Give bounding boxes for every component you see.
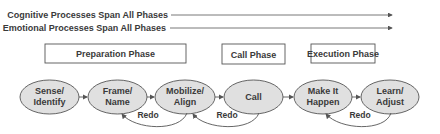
svg-text:Redo: Redo: [137, 110, 158, 120]
svg-text:Adjust: Adjust: [376, 97, 404, 107]
step-make-it-happen: Make It Happen: [294, 80, 352, 114]
svg-text:Redo: Redo: [216, 110, 237, 120]
step-mobilize-align: Mobilize/ Align: [155, 80, 215, 114]
svg-text:Name: Name: [105, 97, 130, 107]
svg-text:Redo: Redo: [349, 110, 370, 120]
phase-label: Call Phase: [231, 50, 277, 60]
step-call: Call: [224, 80, 283, 114]
svg-text:Align: Align: [174, 97, 197, 107]
diagram-canvas: Cognitive Processes Span All Phases Emot…: [0, 0, 440, 134]
phase-execution: Execution Phase: [307, 44, 379, 63]
phase-preparation: Preparation Phase: [45, 44, 186, 63]
step-sense-identify: Sense/ Identify: [20, 80, 79, 114]
emotional-process-row: Emotional Processes Span All Phases: [3, 23, 392, 33]
cognitive-process-label: Cognitive Processes Span All Phases: [7, 10, 168, 20]
svg-text:Make It: Make It: [308, 86, 339, 96]
cognitive-process-row: Cognitive Processes Span All Phases: [7, 10, 392, 20]
phase-label: Execution Phase: [307, 49, 379, 59]
phase-label: Preparation Phase: [76, 49, 155, 59]
svg-text:Call: Call: [245, 92, 262, 102]
svg-text:Sense/: Sense/: [35, 86, 65, 96]
svg-text:Mobilize/: Mobilize/: [166, 86, 204, 96]
emotional-process-label: Emotional Processes Span All Phases: [3, 23, 166, 33]
svg-text:Learn/: Learn/: [376, 86, 404, 96]
svg-text:Frame/: Frame/: [103, 86, 133, 96]
svg-text:Happen: Happen: [306, 97, 339, 107]
step-frame-name: Frame/ Name: [88, 80, 147, 114]
phase-call: Call Phase: [222, 44, 285, 64]
step-learn-adjust: Learn/ Adjust: [361, 80, 419, 114]
svg-text:Identify: Identify: [33, 97, 65, 107]
